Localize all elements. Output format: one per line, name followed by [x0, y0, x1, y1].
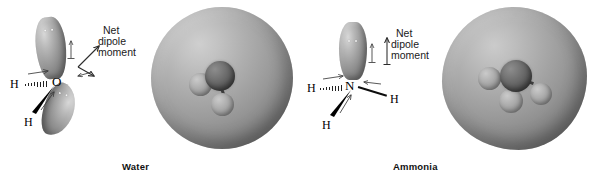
ammonia-inner-nitrogen: [500, 60, 532, 92]
molecular-dipole-figure: O H H: [0, 0, 602, 179]
panel-water: O H H: [0, 0, 301, 179]
water-orbital-structure: O H H: [0, 0, 150, 150]
water-net-dipole-label-line3: moment: [98, 47, 136, 59]
water-inner-oxygen: [205, 61, 235, 91]
ammonia-dipole-arrows: [301, 0, 451, 150]
ammonia-inner-hydrogen: [478, 67, 501, 90]
water-inner-hydrogen: [211, 93, 234, 116]
caption-ammonia: Ammonia: [393, 161, 438, 172]
ammonia-inner-hydrogen: [530, 83, 552, 105]
water-electron-density-model: [151, 7, 293, 149]
ammonia-orbital-structure: N H H H: [301, 0, 451, 150]
panel-ammonia: N H H H: [301, 0, 602, 179]
water-dipole-arrows: [0, 0, 150, 150]
ammonia-inner-hydrogen: [499, 89, 523, 113]
caption-water: Water: [122, 161, 149, 172]
ammonia-net-dipole-label-line3: moment: [391, 50, 429, 62]
ammonia-electron-density-model: [442, 7, 587, 150]
